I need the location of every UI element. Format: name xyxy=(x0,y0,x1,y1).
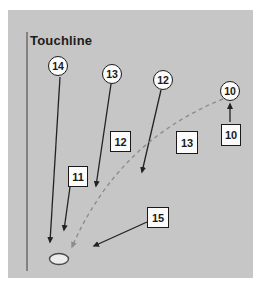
player-circle-10: 10 xyxy=(220,81,240,101)
player-circle-14: 14 xyxy=(48,56,68,76)
player-circle-13: 13 xyxy=(102,64,122,84)
touchline-label: Touchline xyxy=(30,33,92,48)
player-circle-12: 12 xyxy=(153,70,173,90)
position-box-12: 12 xyxy=(110,131,131,152)
run-arrow-from-12 xyxy=(142,90,161,172)
position-box-10: 10 xyxy=(221,124,241,146)
position-box-15: 15 xyxy=(147,207,169,228)
position-box-13: 13 xyxy=(176,131,198,154)
ball-ellipse xyxy=(50,254,69,265)
figure-page: Touchline 14 13 12 10 12 13 10 11 15 xyxy=(0,0,258,293)
run-arrow-from-14 xyxy=(50,77,60,242)
run-arrow-from-13 xyxy=(96,84,111,186)
run-arrow-from-box-15 xyxy=(94,222,147,246)
run-arrow-from-box-11 xyxy=(64,187,70,230)
pitch-panel: Touchline 14 13 12 10 12 13 10 11 15 xyxy=(8,10,253,278)
position-box-11: 11 xyxy=(68,166,88,187)
